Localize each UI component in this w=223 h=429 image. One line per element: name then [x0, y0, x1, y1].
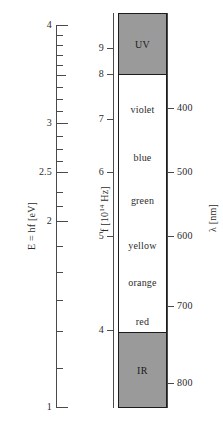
color-label-orange: orange [119, 277, 166, 288]
energy-tick-4 [56, 25, 68, 26]
wavelength-tick-500 [167, 172, 174, 173]
wavelength-tick-label-500: 500 [177, 167, 203, 177]
frequency-tick-label-8: 8 [89, 69, 104, 79]
frequency-label-suffix: Hz] [99, 186, 110, 204]
frequency-tick-5 [107, 236, 114, 237]
frequency-label-exponent: 14 [98, 204, 106, 211]
energy-minor-tick [56, 65, 63, 66]
energy-minor-tick [56, 87, 63, 88]
energy-minor-tick [56, 55, 63, 56]
energy-tick-1 [56, 407, 68, 408]
energy-tick-label-3: 3 [36, 118, 52, 128]
energy-tick-label-4: 4 [36, 20, 52, 30]
energy-minor-tick [56, 300, 63, 301]
frequency-tick-9 [107, 48, 114, 49]
energy-minor-tick [56, 368, 63, 369]
color-label-blue: blue [119, 152, 166, 163]
energy-minor-tick [56, 192, 63, 193]
energy-tick-3 [56, 123, 68, 124]
energy-minor-tick [56, 35, 63, 36]
frequency-tick-label-4: 4 [89, 325, 104, 335]
uv-band-label: UV [135, 39, 150, 50]
energy-minor-tick [56, 111, 63, 112]
energy-axis-line [56, 25, 57, 408]
energy-minor-tick [56, 246, 63, 247]
frequency-tick-4 [107, 330, 114, 331]
color-label-red: red [119, 316, 166, 327]
energy-minor-tick [56, 272, 63, 273]
wavelength-tick-800 [167, 383, 174, 384]
ir-band-label: IR [137, 365, 148, 376]
energy-minor-tick [56, 161, 63, 162]
frequency-tick-label-6: 6 [89, 167, 104, 177]
energy-minor-tick [56, 45, 63, 46]
frequency-axis-label: f [1014 Hz] [98, 186, 110, 232]
frequency-label-prefix: f [10 [99, 212, 110, 232]
energy-minor-tick [56, 149, 63, 150]
wavelength-tick-600 [167, 236, 174, 237]
frequency-tick-label-5: 5 [89, 231, 104, 241]
frequency-tick-label-9: 9 [89, 43, 104, 53]
spectrum-bar: UV violet blue green yellow orange red I… [118, 13, 167, 408]
frequency-tick-6 [107, 172, 114, 173]
frequency-tick-label-7: 7 [89, 114, 104, 124]
wavelength-tick-400 [167, 108, 174, 109]
uv-band: UV [118, 13, 167, 75]
energy-tick-label-1: 1 [36, 402, 52, 412]
energy-minor-tick [56, 206, 63, 207]
energy-minor-tick [56, 331, 63, 332]
frequency-tick-8 [107, 74, 114, 75]
wavelength-tick-label-700: 700 [177, 301, 203, 311]
energy-minor-tick [56, 99, 63, 100]
color-label-violet: violet [119, 104, 166, 115]
energy-minor-tick [56, 75, 66, 76]
energy-minor-tick [56, 136, 63, 137]
wavelength-tick-700 [167, 306, 174, 307]
color-label-green: green [119, 195, 166, 206]
energy-tick-2p5 [56, 172, 68, 173]
ir-band: IR [118, 332, 167, 408]
energy-tick-label-2: 2 [36, 216, 52, 226]
wavelength-axis-label: λ [nm] [207, 204, 218, 232]
color-label-yellow: yellow [119, 240, 166, 251]
wavelength-axis-line [167, 13, 168, 408]
wavelength-tick-label-800: 800 [177, 378, 203, 388]
energy-tick-2 [56, 221, 68, 222]
spectrum-figure: E = hf [eV] 4 3 2.5 2 1 f [1014 Hz] 9 8 … [0, 0, 223, 429]
frequency-tick-7 [107, 119, 114, 120]
frequency-axis-line [113, 13, 114, 408]
wavelength-tick-label-400: 400 [177, 103, 203, 113]
energy-tick-label-2p5: 2.5 [26, 167, 52, 177]
wavelength-tick-label-600: 600 [177, 231, 203, 241]
